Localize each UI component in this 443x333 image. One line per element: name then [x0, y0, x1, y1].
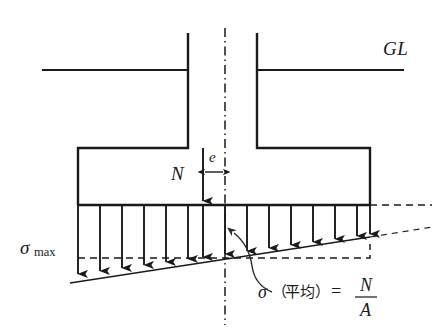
- sigma-max-subscript: max: [34, 245, 56, 259]
- fraction-numerator: N: [359, 275, 373, 295]
- pressure-envelope-extension: [370, 227, 432, 237]
- ground-level-label: GL: [383, 38, 408, 59]
- eccentric-footing-diagram: GL N e σ max σ （ 平均 ） = N A: [0, 0, 443, 333]
- sigma-max-label: σ max: [20, 237, 56, 259]
- equals-sign: =: [330, 281, 342, 301]
- average-stress-formula: σ （ 平均 ） = N A: [258, 275, 377, 320]
- eccentricity-label: e: [209, 149, 216, 165]
- axial-load-label: N: [170, 163, 185, 184]
- avg-text: 平均: [285, 283, 315, 301]
- figure-canvas: GL N e σ max σ （ 平均 ） = N A: [0, 0, 443, 333]
- pressure-envelope-line: [70, 237, 370, 283]
- avg-close-paren: ）: [315, 283, 330, 301]
- pressure-arrow-group: [78, 205, 370, 274]
- footing-outline-right: [257, 33, 370, 205]
- fraction-denominator: A: [359, 300, 372, 320]
- avg-sigma-symbol: σ: [258, 282, 268, 302]
- sigma-max-symbol: σ: [20, 237, 30, 258]
